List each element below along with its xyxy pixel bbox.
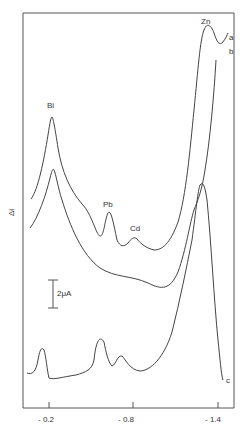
curve-label-a: a	[229, 33, 234, 42]
y-axis-label: Δi	[7, 209, 16, 216]
curve-label-c: c	[226, 376, 230, 385]
voltammogram-chart: - 0.2 - 0.8 - 1.4 Δi Bi Pb Cd Zn a b c 2…	[0, 0, 244, 437]
peak-label-pb: Pb	[103, 200, 113, 209]
curve-b	[30, 60, 216, 287]
peak-label-cd: Cd	[130, 224, 140, 233]
x-tick-label-1: - 0.2	[38, 415, 55, 424]
plot-frame	[23, 13, 234, 408]
curve-a	[31, 25, 228, 250]
curve-label-b: b	[229, 47, 234, 56]
curve-c	[27, 184, 223, 380]
peak-label-bi: Bi	[47, 101, 54, 110]
peak-label-zn: Zn	[201, 17, 210, 26]
scale-bar: 2μA	[48, 280, 72, 308]
scale-bar-label: 2μA	[57, 289, 72, 298]
x-tick-label-2: - 0.8	[118, 415, 135, 424]
x-tick-label-3: - 1.4	[205, 415, 222, 424]
